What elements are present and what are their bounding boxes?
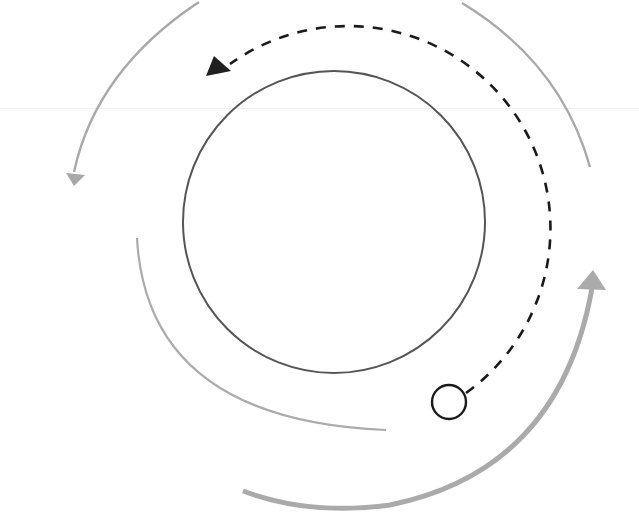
outer-arc-top-left [74,2,199,172]
outer-arc-top-right [462,3,590,167]
orbital-diagram [0,0,639,525]
outer-arc-top-left-arrowhead-icon [66,173,85,186]
orbit-arrowhead-icon [206,56,231,76]
satellite-circle [432,385,466,419]
central-body-circle [183,71,485,373]
bottom-arc [243,288,592,508]
bottom-arc-arrowhead-icon [577,270,606,290]
inner-arc-left [137,238,386,430]
